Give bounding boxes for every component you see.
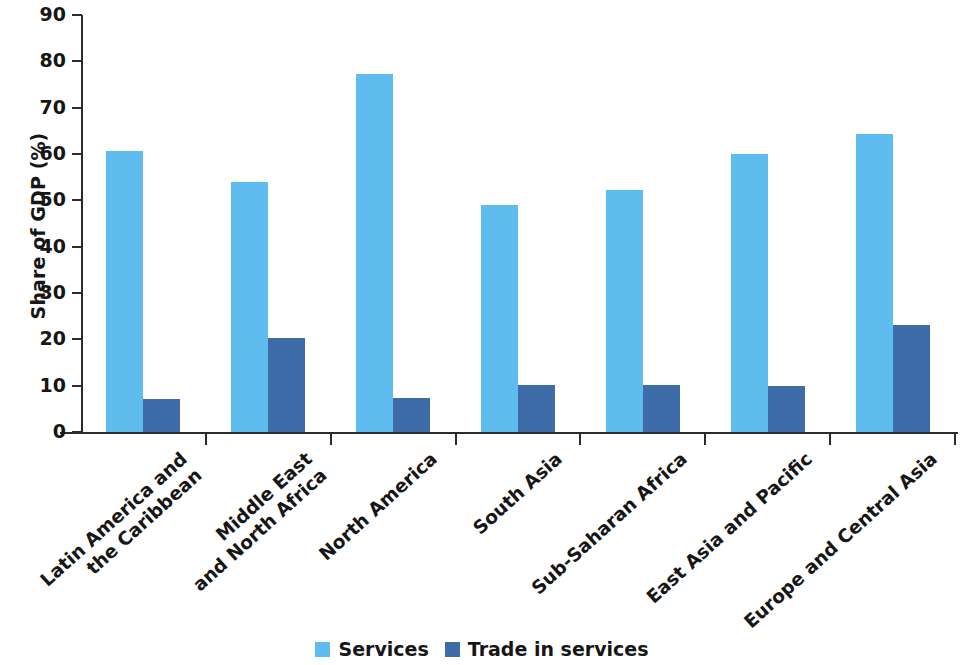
x-axis-tick xyxy=(579,434,581,445)
bar-trade-in-services xyxy=(893,325,930,432)
x-axis-label-line: North America xyxy=(315,448,442,565)
x-axis-category-label: Latin America andthe Caribbean xyxy=(37,448,207,607)
chart-legend: ServicesTrade in services xyxy=(0,640,964,659)
bar-trade-in-services xyxy=(393,398,430,432)
bar-chart: Share of GDP (%) 0102030405060708090 Lat… xyxy=(0,0,964,665)
y-axis-tick-label: 20 xyxy=(0,329,66,348)
bar-services xyxy=(481,205,518,432)
y-axis-tick-label: 10 xyxy=(0,376,66,395)
bar-trade-in-services xyxy=(268,338,305,432)
x-axis-tick xyxy=(330,434,332,445)
legend-label: Services xyxy=(338,640,428,659)
bar-trade-in-services xyxy=(143,399,180,432)
x-axis-tick xyxy=(205,434,207,445)
bar-services xyxy=(606,190,643,432)
y-axis-tick-label: 0 xyxy=(0,422,66,441)
x-axis-tick xyxy=(954,434,956,445)
x-axis-label-line: the Caribbean xyxy=(51,464,206,607)
bar-services xyxy=(106,151,143,432)
x-axis-category-label: North America xyxy=(315,448,442,565)
x-axis-line xyxy=(60,432,958,434)
x-axis-label-line: Latin America and xyxy=(37,448,192,591)
y-axis-tick-label: 30 xyxy=(0,283,66,302)
bar-services xyxy=(231,182,268,432)
x-axis-category-label: South Asia xyxy=(469,448,567,539)
legend-swatch-icon xyxy=(315,642,330,657)
bar-services xyxy=(731,154,768,432)
bar-trade-in-services xyxy=(768,386,805,432)
legend-swatch-icon xyxy=(445,642,460,657)
y-axis-tick-label: 50 xyxy=(0,190,66,209)
legend-item[interactable]: Trade in services xyxy=(445,640,649,659)
y-axis-tick-label: 90 xyxy=(0,5,66,24)
y-axis-tick-label: 40 xyxy=(0,237,66,256)
plot-area xyxy=(81,15,955,432)
legend-label: Trade in services xyxy=(468,640,649,659)
x-axis-tick xyxy=(829,434,831,445)
bar-services xyxy=(856,134,893,432)
legend-item[interactable]: Services xyxy=(315,640,428,659)
bar-trade-in-services xyxy=(643,385,680,432)
x-axis-tick xyxy=(455,434,457,445)
bar-trade-in-services xyxy=(518,385,555,432)
x-axis-tick xyxy=(704,434,706,445)
y-axis-title: Share of GDP (%) xyxy=(27,96,49,356)
y-axis-tick-label: 70 xyxy=(0,98,66,117)
bar-services xyxy=(356,74,393,432)
y-axis-tick-label: 80 xyxy=(0,51,66,70)
x-axis-label-line: South Asia xyxy=(469,448,567,539)
y-axis-tick-label: 60 xyxy=(0,144,66,163)
